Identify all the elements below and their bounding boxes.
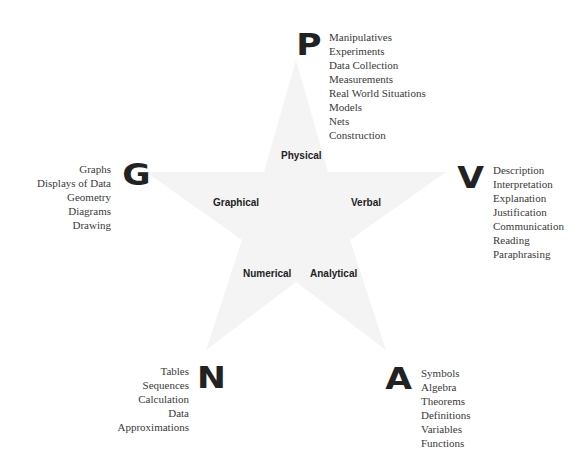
list-item: Construction <box>329 128 426 142</box>
letter-n: N <box>197 363 226 393</box>
list-item: Manipulatives <box>329 30 426 44</box>
list-item: Reading <box>493 233 564 247</box>
list-item: Approximations <box>118 420 190 434</box>
graphical-items: Graphs Displays of Data Geometry Diagram… <box>37 162 111 232</box>
list-item: Description <box>493 163 564 177</box>
list-item: Diagrams <box>37 204 111 218</box>
list-item: Algebra <box>421 380 471 394</box>
list-item: Variables <box>421 422 471 436</box>
list-item: Data <box>118 406 190 420</box>
list-item: Theorems <box>421 394 471 408</box>
list-item: Tables <box>118 364 190 378</box>
list-item: Explanation <box>493 191 564 205</box>
letter-g: G <box>122 160 150 190</box>
list-item: Symbols <box>421 366 471 380</box>
list-item: Drawing <box>37 218 111 232</box>
list-item: Graphs <box>37 162 111 176</box>
list-item: Functions <box>421 436 471 450</box>
list-item: Nets <box>329 114 426 128</box>
list-item: Displays of Data <box>37 176 111 190</box>
list-item: Geometry <box>37 190 111 204</box>
numerical-items: Tables Sequences Calculation Data Approx… <box>118 364 190 434</box>
list-item: Sequences <box>118 378 190 392</box>
analytical-items: Symbols Algebra Theorems Definitions Var… <box>421 366 471 450</box>
list-item: Data Collection <box>329 58 426 72</box>
label-analytical: Analytical <box>310 268 357 279</box>
list-item: Communication <box>493 219 564 233</box>
letter-v: V <box>457 163 484 193</box>
label-graphical: Graphical <box>213 197 259 208</box>
list-item: Calculation <box>118 392 190 406</box>
list-item: Experiments <box>329 44 426 58</box>
verbal-items: Description Interpretation Explanation J… <box>493 163 564 261</box>
letter-a: A <box>385 364 412 394</box>
list-item: Measurements <box>329 72 426 86</box>
physical-items: Manipulatives Experiments Data Collectio… <box>329 30 426 142</box>
list-item: Real World Situations <box>329 86 426 100</box>
label-verbal: Verbal <box>351 197 381 208</box>
list-item: Definitions <box>421 408 471 422</box>
label-physical: Physical <box>281 150 322 161</box>
letter-p: P <box>296 30 321 60</box>
label-numerical: Numerical <box>243 268 291 279</box>
list-item: Paraphrasing <box>493 247 564 261</box>
list-item: Interpretation <box>493 177 564 191</box>
list-item: Justification <box>493 205 564 219</box>
list-item: Models <box>329 100 426 114</box>
